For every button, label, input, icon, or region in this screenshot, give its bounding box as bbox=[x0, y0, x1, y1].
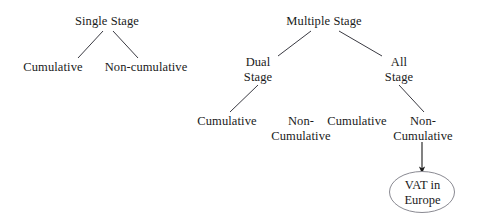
edge-single-stage-to-cumulative bbox=[78, 31, 103, 58]
node-vat-in-europe-label-line2: Europe bbox=[404, 193, 440, 207]
node-dual-stage-cumulative: Cumulative bbox=[190, 114, 264, 129]
node-multiple-stage-label: Multiple Stage bbox=[286, 14, 361, 28]
edge-single-stage-to-non-cumulative bbox=[113, 31, 138, 58]
node-dual-stage-label-line1: Dual bbox=[246, 55, 271, 69]
node-all-stage-label-line1: All bbox=[391, 55, 407, 69]
node-single-stage-cumulative: Cumulative bbox=[16, 60, 90, 75]
node-all-stage-non-cumulative-label-line1: Non- bbox=[410, 114, 436, 128]
node-single-stage-non-cumulative: Non-cumulative bbox=[98, 60, 194, 75]
node-dual-stage-non-cumulative-label-line2: Cumulative bbox=[264, 129, 338, 144]
node-all-stage-label-line2: Stage bbox=[377, 70, 421, 85]
node-all-stage-cumulative-label: Cumulative bbox=[327, 114, 386, 128]
node-dual-stage-non-cumulative-label-line1: Non- bbox=[288, 114, 314, 128]
node-vat-in-europe-label: VAT in Europe bbox=[404, 178, 440, 207]
node-all-stage-non-cumulative-label-line2: Cumulative bbox=[386, 129, 460, 144]
node-dual-stage-cumulative-label: Cumulative bbox=[197, 114, 256, 128]
edge-all-stage-to-non-cumulative bbox=[399, 85, 424, 112]
edge-multiple-stage-to-dual-stage bbox=[278, 31, 311, 56]
edge-multiple-stage-to-all-stage bbox=[339, 31, 382, 56]
node-single-stage-cumulative-label: Cumulative bbox=[23, 60, 82, 74]
node-all-stage-cumulative: Cumulative bbox=[320, 114, 394, 129]
node-vat-in-europe-label-line1: VAT in bbox=[405, 178, 440, 192]
edge-dual-stage-to-cumulative bbox=[230, 85, 258, 112]
node-all-stage-non-cumulative: Non- Cumulative bbox=[386, 114, 460, 143]
node-single-stage: Single Stage bbox=[73, 14, 141, 29]
node-dual-stage: Dual Stage bbox=[236, 55, 280, 84]
node-all-stage: All Stage bbox=[377, 55, 421, 84]
node-single-stage-non-cumulative-label: Non-cumulative bbox=[105, 60, 188, 74]
node-dual-stage-label-line2: Stage bbox=[236, 70, 280, 85]
node-single-stage-label: Single Stage bbox=[75, 14, 139, 28]
tax-stage-classification-diagram: Single Stage Cumulative Non-cumulative M… bbox=[0, 0, 481, 218]
node-multiple-stage: Multiple Stage bbox=[282, 14, 366, 29]
node-vat-in-europe: VAT in Europe bbox=[390, 172, 455, 213]
